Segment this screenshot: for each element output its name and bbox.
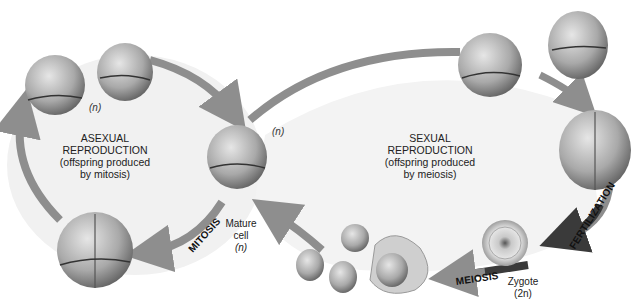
zygote-line1: Zygote (500, 276, 546, 288)
asexual-title-line2: REPRODUCTION (50, 144, 160, 156)
zygote-cell (482, 220, 528, 266)
mature-ploidy-tag: (n) (272, 126, 284, 137)
asexual-cell-2 (97, 43, 153, 101)
sexual-title-line2: REPRODUCTION (370, 144, 490, 156)
mature-cell-label: Mature cell (n) (218, 218, 264, 254)
mature-cell (207, 125, 267, 189)
sexual-cell-2 (548, 11, 608, 79)
fusing-cells (559, 110, 631, 190)
zygote-line2: (2n) (500, 288, 546, 300)
sexual-title-line1: SEXUAL (370, 132, 490, 144)
mature-cell-line3: (n) (218, 242, 264, 254)
asexual-cell-1 (25, 55, 85, 115)
mature-cell-line1: Mature (218, 218, 264, 230)
mature-cell-line2: cell (218, 230, 264, 242)
asexual-title-line1: ASEXUAL (50, 132, 160, 144)
asexual-title: ASEXUAL REPRODUCTION (offspring produced… (50, 132, 160, 180)
sexual-subtitle-line1: (offspring produced (370, 156, 490, 168)
dividing-cell (57, 212, 133, 288)
sexual-cell-1 (458, 33, 522, 97)
asexual-ploidy-tag: (n) (89, 102, 101, 113)
zygote-label: Zygote (2n) (500, 276, 546, 300)
asexual-subtitle-line1: (offspring produced (50, 156, 160, 168)
life-cycle-diagram: ASEXUAL REPRODUCTION (offspring produced… (0, 0, 634, 308)
asexual-subtitle-line2: by mitosis) (50, 168, 160, 180)
sexual-title: SEXUAL REPRODUCTION (offspring produced … (370, 132, 490, 180)
sexual-subtitle-line2: by meiosis) (370, 168, 490, 180)
